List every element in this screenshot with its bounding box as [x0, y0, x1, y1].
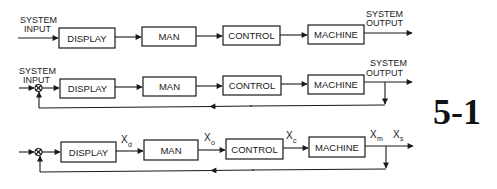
- figure-number: 5-1: [433, 92, 481, 132]
- svg-text:c: c: [293, 137, 297, 144]
- display-label: DISPLAY: [68, 83, 108, 94]
- control-label: CONTROL: [228, 30, 274, 41]
- control-label: CONTROL: [231, 144, 277, 155]
- signal-xo: X o: [204, 132, 215, 146]
- signal-xm: X m: [370, 129, 383, 142]
- svg-text:X: X: [121, 134, 128, 145]
- man-label: MAN: [158, 31, 179, 42]
- man-label: MAN: [160, 145, 181, 156]
- svg-text:X: X: [286, 130, 293, 141]
- display-label: DISPLAY: [67, 33, 107, 44]
- signal-xd: X d: [121, 134, 132, 148]
- system-input-label-line2: INPUT: [24, 24, 52, 34]
- system-output-label-line2: OUTPUT: [366, 18, 404, 28]
- machine-label: MACHINE: [314, 79, 358, 90]
- signal-xs: X s: [393, 129, 404, 142]
- man-label: MAN: [159, 81, 180, 92]
- system-output-label-line2: OUTPUT: [366, 68, 404, 78]
- svg-text:s: s: [400, 135, 404, 142]
- svg-text:m: m: [377, 135, 383, 142]
- svg-text:o: o: [211, 139, 215, 146]
- control-label: CONTROL: [229, 80, 275, 91]
- svg-text:d: d: [128, 141, 132, 148]
- display-label: DISPLAY: [69, 147, 109, 158]
- signal-flow-diagram: DISPLAY X d MAN X o CONTROL X c MACHINE …: [19, 129, 413, 172]
- system-input-label-line2: INPUT: [23, 75, 51, 85]
- machine-label: MACHINE: [315, 142, 359, 153]
- block-diagrams: SYSTEM INPUT DISPLAY MAN CONTROL MACHINE…: [0, 0, 497, 189]
- closed-loop-diagram: SYSTEM INPUT DISPLAY MAN CONTROL MACHINE…: [19, 58, 412, 108]
- system-output-label-line1: SYSTEM: [370, 58, 407, 68]
- svg-text:X: X: [370, 129, 377, 140]
- open-loop-diagram: SYSTEM INPUT DISPLAY MAN CONTROL MACHINE…: [18, 9, 412, 48]
- svg-text:X: X: [204, 132, 211, 143]
- machine-label: MACHINE: [314, 29, 358, 40]
- summing-junction: [35, 149, 42, 156]
- signal-xc: X c: [286, 130, 297, 144]
- summing-junction: [35, 85, 42, 92]
- svg-text:X: X: [393, 129, 400, 140]
